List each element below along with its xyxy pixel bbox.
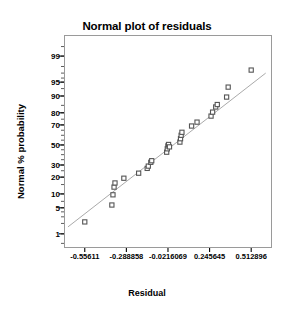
data-point — [111, 193, 115, 197]
data-point — [211, 110, 215, 114]
x-axis-tick-label: -0.55611 — [70, 252, 99, 261]
data-point — [189, 124, 193, 128]
data-point — [113, 181, 117, 185]
data-point — [226, 85, 230, 89]
data-point — [83, 220, 87, 224]
data-points — [83, 68, 254, 224]
data-point — [167, 145, 171, 149]
y-axis-tick-label: 20 — [38, 173, 60, 182]
y-axis-tick-label: 80 — [38, 108, 60, 117]
y-axis-tick-label: 99 — [38, 52, 60, 61]
data-point — [137, 171, 141, 175]
data-point — [215, 102, 219, 106]
x-axis-tick-label: -0.288858 — [109, 252, 143, 261]
y-axis-tick-label: 50 — [38, 140, 60, 149]
y-axis-tick-labels: 99959080705030201051 — [38, 0, 60, 320]
data-point — [225, 95, 229, 99]
y-axis-tick-label: 90 — [38, 92, 60, 101]
axis-ticks — [59, 47, 251, 252]
data-point — [180, 130, 184, 134]
y-axis-tick-label: 70 — [38, 120, 60, 129]
x-axis-tick-label: 0.245645 — [194, 252, 225, 261]
y-axis-tick-label: 30 — [38, 160, 60, 169]
data-point — [122, 176, 126, 180]
data-point — [112, 185, 116, 189]
y-axis-tick-label: 10 — [38, 189, 60, 198]
y-axis-title: Normal % probability — [15, 72, 26, 232]
data-point — [150, 159, 154, 163]
y-axis-tick-label: 1 — [38, 229, 60, 238]
y-axis-tick-label: 5 — [38, 203, 60, 212]
x-axis-title: Residual — [0, 288, 294, 298]
data-point — [249, 68, 253, 72]
x-axis-tick-label: 0.512896 — [236, 252, 267, 261]
data-point — [195, 120, 199, 124]
normal-probability-plot-figure: Normal plot of residuals 999590807050302… — [0, 0, 294, 320]
y-axis-tick-label: 95 — [38, 78, 60, 87]
x-axis-tick-label: -0.0216069 — [149, 252, 187, 261]
data-point — [110, 203, 114, 207]
